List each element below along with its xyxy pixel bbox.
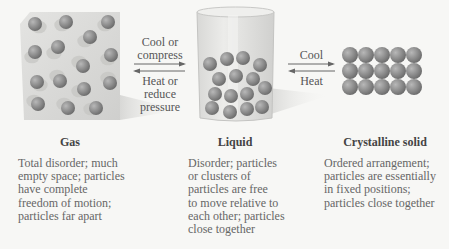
particle — [358, 47, 374, 63]
particle — [342, 79, 358, 95]
particle — [51, 40, 65, 54]
particle — [374, 79, 390, 95]
particle — [53, 74, 67, 88]
liquid-description: Disorder; particles or clusters of parti… — [188, 157, 285, 236]
particle — [224, 89, 238, 103]
gas-description: Total disorder; much empty space; partic… — [18, 157, 125, 223]
particle — [229, 69, 243, 83]
particle — [358, 63, 374, 79]
particle — [240, 87, 254, 101]
particle — [236, 51, 250, 65]
desc-line: close together — [188, 223, 285, 236]
particle — [374, 63, 390, 79]
particle — [390, 47, 406, 63]
gas-title: Gas — [20, 135, 120, 150]
particle — [253, 58, 267, 72]
crystalline-solid-description: Ordered arrangement; particles are essen… — [324, 157, 436, 210]
desc-line: have complete — [18, 183, 125, 196]
cool-or-compress-label: Cool or compress — [134, 36, 186, 62]
particle — [61, 101, 75, 115]
particle — [406, 47, 422, 63]
particle — [83, 30, 97, 44]
liquid-solid-arrows — [288, 62, 335, 74]
liquid-title: Liquid — [185, 135, 285, 150]
particle — [203, 57, 217, 71]
liquid-beaker — [197, 7, 274, 121]
particle — [76, 59, 90, 73]
particle — [28, 45, 42, 59]
particle — [255, 100, 269, 114]
particle — [258, 81, 272, 95]
particle — [342, 47, 358, 63]
crystalline-solid-title: Crystalline solid — [330, 135, 440, 150]
particle — [342, 63, 358, 79]
desc-line: in fixed positions; — [324, 183, 436, 196]
particle — [390, 79, 406, 95]
particle — [358, 79, 374, 95]
particle — [205, 101, 219, 115]
desc-line: to move relative to — [188, 197, 285, 210]
desc-line: particles far apart — [18, 210, 125, 223]
gas-liquid-arrows — [133, 62, 186, 74]
particle — [104, 48, 118, 62]
particle — [31, 97, 45, 111]
desc-line: freedom of motion; — [18, 197, 125, 210]
particle — [374, 47, 390, 63]
heat-label: Heat — [288, 75, 335, 88]
particle — [101, 15, 115, 29]
liquid-wedge-shadow — [268, 88, 330, 115]
particle — [59, 15, 73, 29]
particle — [77, 82, 91, 96]
label-line: compress — [134, 49, 186, 62]
particle — [406, 79, 422, 95]
particle — [103, 76, 117, 90]
particle — [208, 87, 222, 101]
solid-lattice — [342, 47, 422, 95]
particle — [30, 75, 44, 89]
particle — [89, 101, 103, 115]
particle — [390, 63, 406, 79]
desc-line: particles close together — [324, 197, 436, 210]
particle — [220, 52, 234, 66]
label-line: pressure — [134, 101, 186, 114]
particle — [246, 72, 260, 86]
particle — [28, 17, 42, 31]
cool-label: Cool — [288, 49, 335, 62]
gas-box — [20, 12, 120, 120]
particle — [223, 105, 237, 119]
heat-or-reduce-pressure-label: Heat or reduce pressure — [134, 75, 186, 114]
desc-line: particles are free — [188, 183, 285, 196]
particle — [212, 72, 226, 86]
particle — [240, 102, 254, 116]
particle — [406, 63, 422, 79]
